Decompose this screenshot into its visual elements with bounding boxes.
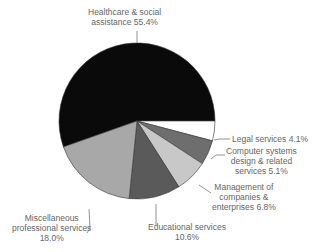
- label-management: Management of companies & enterprises 6.…: [212, 182, 276, 212]
- label-computer: Computer systems design & related servic…: [226, 146, 297, 176]
- label-legal: Legal services 4.1%: [232, 134, 308, 144]
- pie-slices: [59, 43, 215, 199]
- label-misc: Miscellaneous professional services 18.0…: [12, 213, 91, 243]
- label-healthcare: Healthcare & social assistance 55.4%: [88, 7, 161, 27]
- label-educational: Educational services 10.6%: [148, 222, 226, 242]
